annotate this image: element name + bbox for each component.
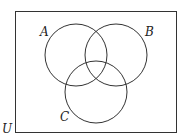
set-c-circle	[65, 61, 127, 123]
universe-label: U	[2, 122, 13, 136]
venn-diagram: A B C U	[0, 0, 184, 138]
set-c-label: C	[60, 110, 69, 124]
set-b-circle	[85, 24, 147, 86]
set-a-circle	[45, 24, 107, 86]
set-a-label: A	[39, 25, 49, 39]
set-b-label: B	[144, 25, 154, 39]
